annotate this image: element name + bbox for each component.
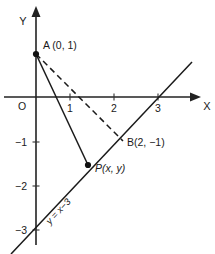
coordinate-figure: Y X O 1 2 3 −1 −2 −3 A (0, 1) B(2, −1) P… <box>0 0 215 254</box>
y-tick-label-minus1: −1 <box>15 136 27 148</box>
x-axis-label: X <box>203 100 211 112</box>
x-tick-label-1: 1 <box>67 102 73 114</box>
x-tick-label-3: 3 <box>155 102 161 114</box>
origin-label: O <box>18 100 26 112</box>
y-axis-arrow-icon <box>32 6 41 17</box>
point-a-dot <box>33 51 39 57</box>
line-equation-label: y = x−3 <box>43 196 73 228</box>
point-a-label: A (0, 1) <box>43 39 77 51</box>
coordinate-plane-svg: Y X O 1 2 3 −1 −2 −3 A (0, 1) B(2, −1) P… <box>0 0 215 254</box>
point-p-label: P(x, y) <box>95 162 125 174</box>
axes-group <box>4 6 201 245</box>
y-tick-label-minus2: −2 <box>15 180 27 192</box>
point-p-dot <box>85 162 91 168</box>
y-tick-label-minus3: −3 <box>15 224 27 236</box>
segment-a-to-p <box>36 54 88 165</box>
y-axis-label: Y <box>19 15 27 27</box>
line-y-equals-x-minus-3 <box>11 62 192 254</box>
point-b-label: B(2, −1) <box>127 136 165 148</box>
x-axis-arrow-icon <box>190 93 201 102</box>
x-tick-label-2: 2 <box>111 102 117 114</box>
